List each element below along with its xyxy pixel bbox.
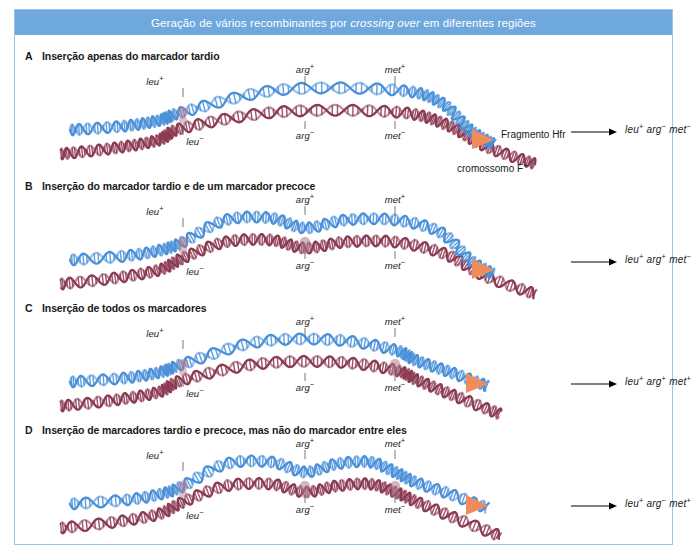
gene-sign: −: [401, 380, 405, 389]
dna-diagram-a: [15, 50, 674, 170]
f-minus-chromosome-label: cromossomo F−: [457, 163, 528, 174]
result-gene-met: met: [669, 124, 686, 135]
gene-sign: +: [401, 62, 405, 71]
result-sign-arg: −: [662, 122, 667, 131]
gene-name: met: [385, 130, 401, 141]
result-gene-leu: leu: [625, 124, 639, 135]
gene-name: arg: [296, 316, 310, 327]
gene-sign: −: [401, 502, 405, 511]
result-gene-arg: arg: [647, 498, 662, 509]
result-gene-leu: leu: [625, 498, 639, 509]
gene-name: arg: [296, 64, 310, 75]
result-arrow: [571, 503, 617, 510]
dna-diagram-c: [15, 302, 674, 422]
gene-name: met: [385, 194, 401, 205]
result-gene-arg: arg: [647, 254, 662, 265]
dna-diagram-b: [15, 180, 674, 300]
gene-label-bottom-leu: leu−: [186, 510, 203, 521]
gene-label-top-arg: arg+: [296, 438, 315, 449]
gene-label-bottom-arg: arg−: [296, 130, 315, 141]
gene-name: met: [385, 64, 401, 75]
gene-name: arg: [296, 130, 310, 141]
figure-title-pre: Geração de vários recombinantes por: [151, 17, 350, 29]
gene-name: met: [385, 438, 401, 449]
gene-sign: +: [310, 436, 314, 445]
gene-name: met: [385, 260, 401, 271]
result-sign-leu: +: [639, 374, 644, 383]
gene-label-bottom-arg: arg−: [296, 260, 315, 271]
result-arrow: [571, 259, 617, 266]
gene-sign: +: [310, 192, 314, 201]
gene-label-bottom-arg: arg−: [296, 504, 315, 515]
figure-title-post: em diferentes regiões: [420, 17, 536, 29]
gene-label-top-leu: leu+: [146, 328, 163, 339]
gene-sign: −: [199, 134, 203, 143]
gene-name: arg: [296, 504, 310, 515]
panel-b: BInserção do marcador tardio e de um mar…: [15, 180, 672, 300]
figure-title: Geração de vários recombinantes por cros…: [151, 17, 536, 29]
result-gene-met: met: [669, 498, 686, 509]
result-sign-leu: +: [639, 122, 644, 131]
gene-label-bottom-met: met−: [385, 260, 406, 271]
panel-c: CInserção de todos os marcadoresleu+arg+…: [15, 302, 672, 422]
gene-label-bottom-leu: leu−: [186, 388, 203, 399]
gene-label-top-arg: arg+: [296, 194, 315, 205]
gene-name: arg: [296, 438, 310, 449]
figure-frame: Geração de vários recombinantes por cros…: [14, 9, 673, 545]
gene-label-top-met: met+: [385, 194, 406, 205]
gene-label-bottom-met: met−: [385, 382, 406, 393]
gene-label-bottom-arg: arg−: [296, 382, 315, 393]
figure-title-italic: crossing over: [350, 17, 420, 29]
hfr-fragment-label: Fragmento Hfr: [501, 129, 565, 140]
figure-header-bar: Geração de vários recombinantes por cros…: [15, 10, 672, 35]
gene-name: met: [385, 316, 401, 327]
gene-name: arg: [296, 260, 310, 271]
result-sign-leu: +: [639, 252, 644, 261]
gene-label-top-leu: leu+: [146, 76, 163, 87]
gene-name: leu: [146, 76, 159, 87]
gene-sign: −: [401, 128, 405, 137]
gene-name: leu: [146, 206, 159, 217]
gene-label-bottom-met: met−: [385, 130, 406, 141]
result-genotype-c: leu+ arg+ met+: [625, 376, 691, 387]
result-gene-met: met: [669, 376, 686, 387]
gene-sign: +: [401, 192, 405, 201]
gene-name: met: [385, 382, 401, 393]
gene-sign: +: [159, 448, 163, 457]
gene-sign: +: [159, 326, 163, 335]
gene-name: leu: [186, 136, 199, 147]
gene-sign: −: [310, 128, 314, 137]
gene-label-top-arg: arg+: [296, 316, 315, 327]
result-gene-leu: leu: [625, 254, 639, 265]
result-sign-arg: −: [662, 496, 667, 505]
result-gene-met: met: [669, 254, 686, 265]
result-gene-leu: leu: [625, 376, 639, 387]
gene-label-bottom-met: met−: [385, 504, 406, 515]
gene-sign: −: [199, 264, 203, 273]
gene-name: met: [385, 504, 401, 515]
result-sign-met: +: [686, 496, 691, 505]
gene-sign: −: [310, 502, 314, 511]
gene-sign: +: [401, 436, 405, 445]
gene-name: leu: [186, 266, 199, 277]
chromosome-sign: −: [523, 161, 527, 170]
gene-name: leu: [186, 510, 199, 521]
gene-sign: +: [310, 314, 314, 323]
gene-label-top-arg: arg+: [296, 64, 315, 75]
gene-sign: +: [159, 204, 163, 213]
gene-name: leu: [186, 388, 199, 399]
gene-label-top-leu: leu+: [146, 450, 163, 461]
gene-name: leu: [146, 328, 159, 339]
gene-sign: −: [199, 508, 203, 517]
result-sign-met: −: [686, 122, 691, 131]
result-genotype-b: leu+ arg+ met−: [625, 254, 691, 265]
gene-sign: −: [401, 258, 405, 267]
gene-label-top-met: met+: [385, 438, 406, 449]
gene-name: leu: [146, 450, 159, 461]
result-sign-arg: +: [662, 374, 667, 383]
result-arrow: [571, 381, 617, 388]
result-sign-met: +: [686, 374, 691, 383]
result-genotype-d: leu+ arg− met+: [625, 498, 691, 509]
result-arrow: [571, 129, 617, 136]
dna-diagram-d: [15, 424, 674, 544]
